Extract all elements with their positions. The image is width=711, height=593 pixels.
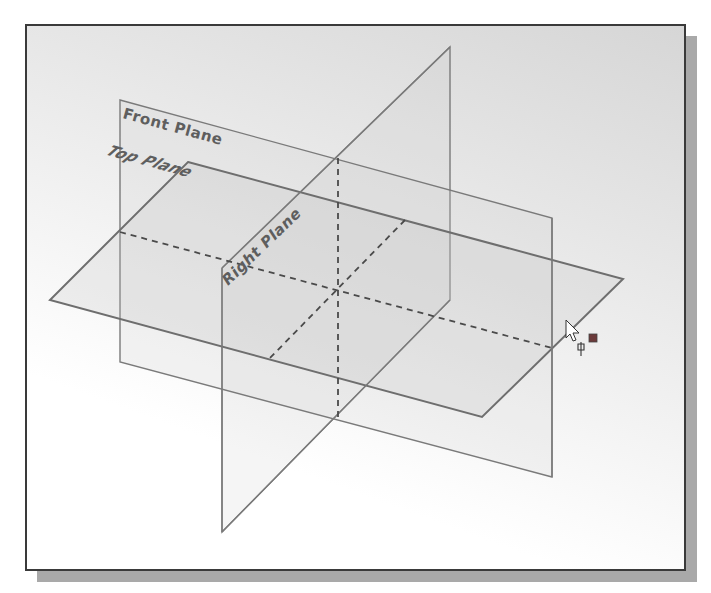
plane-select-icon xyxy=(578,334,597,356)
modeling-screen: Front Plane Top Plane Right Plane xyxy=(0,0,711,593)
reference-planes-scene[interactable]: Front Plane Top Plane Right Plane xyxy=(0,0,711,593)
